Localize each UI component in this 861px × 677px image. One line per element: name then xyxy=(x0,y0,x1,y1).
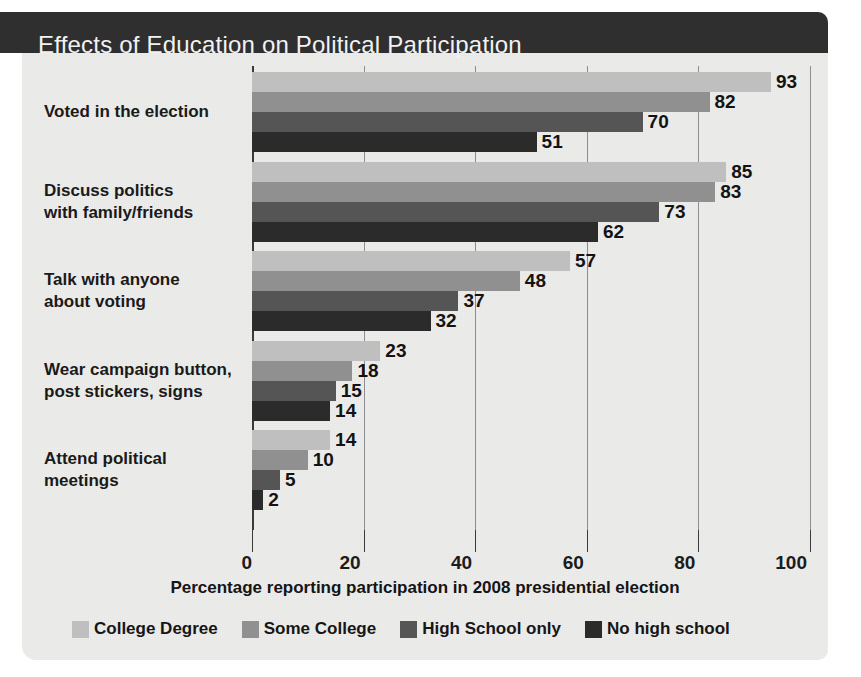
category-label: Wear campaign button, post stickers, sig… xyxy=(44,359,254,403)
category-label: Voted in the election xyxy=(44,101,254,123)
bar-value-label: 62 xyxy=(598,221,624,242)
bar[interactable] xyxy=(252,72,771,92)
bar[interactable] xyxy=(252,470,280,490)
x-axis-tick-label: 100 xyxy=(775,552,810,574)
bar[interactable] xyxy=(252,112,643,132)
chart-figure: Effects of Education on Political Partic… xyxy=(0,0,861,677)
legend-swatch xyxy=(585,621,602,638)
bar-row: 37 xyxy=(252,291,810,311)
legend-item[interactable]: No high school xyxy=(585,619,730,639)
bar-row: 10 xyxy=(252,450,810,470)
bar-value-label: 37 xyxy=(458,290,484,311)
bar-value-label: 93 xyxy=(771,71,797,92)
bar-row: 70 xyxy=(252,112,810,132)
bar[interactable] xyxy=(252,202,659,222)
legend-item[interactable]: Some College xyxy=(242,619,376,639)
bar-row: 23 xyxy=(252,341,810,361)
bar[interactable] xyxy=(252,311,431,331)
title-bar: Effects of Education on Political Partic… xyxy=(0,12,828,53)
bar-row: 14 xyxy=(252,430,810,450)
legend-swatch xyxy=(72,621,89,638)
legend-label: Some College xyxy=(264,619,376,639)
bar-row: 85 xyxy=(252,162,810,182)
bar[interactable] xyxy=(252,490,263,510)
bar-row: 51 xyxy=(252,132,810,152)
bar-row: 73 xyxy=(252,202,810,222)
chart-legend: College DegreeSome CollegeHigh School on… xyxy=(72,619,730,639)
legend-label: No high school xyxy=(607,619,730,639)
bar[interactable] xyxy=(252,430,330,450)
bar-row: 82 xyxy=(252,92,810,112)
bar[interactable] xyxy=(252,271,520,291)
bar-value-label: 15 xyxy=(336,380,362,401)
bar-row: 93 xyxy=(252,72,810,92)
bar[interactable] xyxy=(252,450,308,470)
bar[interactable] xyxy=(252,291,458,311)
bar-value-label: 73 xyxy=(659,201,685,222)
bar-value-label: 10 xyxy=(308,449,334,470)
bar-value-label: 14 xyxy=(330,429,356,450)
bar[interactable] xyxy=(252,401,330,421)
x-axis-tick-label: 0 xyxy=(241,552,255,574)
bar-row: 62 xyxy=(252,222,810,242)
legend-label: College Degree xyxy=(94,619,218,639)
bar[interactable] xyxy=(252,222,598,242)
category-label: Attend political meetings xyxy=(44,448,254,492)
bar-group: 23181514 xyxy=(252,341,810,421)
bar-group: 85837362 xyxy=(252,162,810,242)
legend-swatch xyxy=(242,621,259,638)
bar-row: 83 xyxy=(252,182,810,202)
bar-group: 141052 xyxy=(252,430,810,510)
bar-row: 2 xyxy=(252,490,810,510)
bar-value-label: 5 xyxy=(280,469,296,490)
bar[interactable] xyxy=(252,381,336,401)
x-axis-tick xyxy=(587,530,588,552)
legend-item[interactable]: College Degree xyxy=(72,619,218,639)
bar-row: 5 xyxy=(252,470,810,490)
x-axis-tick-label: 80 xyxy=(674,552,698,574)
page-title: Effects of Education on Political Partic… xyxy=(38,31,522,59)
bar-group: 93827051 xyxy=(252,72,810,152)
category-label: Discuss politics with family/friends xyxy=(44,180,254,224)
bar-value-label: 57 xyxy=(570,250,596,271)
bar[interactable] xyxy=(252,361,352,381)
bar-row: 14 xyxy=(252,401,810,421)
bar-value-label: 83 xyxy=(715,181,741,202)
x-axis-tick-label: 20 xyxy=(339,552,363,574)
bar-value-label: 82 xyxy=(710,91,736,112)
bar-group: 57483732 xyxy=(252,251,810,331)
x-axis-tick xyxy=(364,530,365,552)
bar-value-label: 48 xyxy=(520,270,546,291)
bar-row: 18 xyxy=(252,361,810,381)
x-axis-tick xyxy=(252,530,253,552)
bar[interactable] xyxy=(252,92,710,112)
bar-value-label: 70 xyxy=(643,111,669,132)
bar-row: 57 xyxy=(252,251,810,271)
x-axis-tick xyxy=(698,530,699,552)
legend-item[interactable]: High School only xyxy=(400,619,561,639)
bar-value-label: 2 xyxy=(263,489,279,510)
bar[interactable] xyxy=(252,132,537,152)
category-label: Talk with anyone about voting xyxy=(44,269,254,313)
bar-value-label: 85 xyxy=(726,161,752,182)
x-axis-title: Percentage reporting participation in 20… xyxy=(22,578,828,598)
x-axis-tick xyxy=(475,530,476,552)
bar-row: 32 xyxy=(252,311,810,331)
legend-label: High School only xyxy=(422,619,561,639)
bar-value-label: 23 xyxy=(380,340,406,361)
bar-value-label: 51 xyxy=(537,131,563,152)
category-label-column: Voted in the electionDiscuss politics wi… xyxy=(44,66,244,530)
bar[interactable] xyxy=(252,182,715,202)
legend-swatch xyxy=(400,621,417,638)
x-axis-tick xyxy=(810,530,811,552)
x-axis-tick-label: 60 xyxy=(563,552,587,574)
bar[interactable] xyxy=(252,162,726,182)
bar-row: 15 xyxy=(252,381,810,401)
bar[interactable] xyxy=(252,341,380,361)
gridline xyxy=(810,66,811,530)
bar[interactable] xyxy=(252,251,570,271)
bar-value-label: 18 xyxy=(352,360,378,381)
bar-value-label: 32 xyxy=(431,310,457,331)
bar-row: 48 xyxy=(252,271,810,291)
x-axis-tick-label: 40 xyxy=(451,552,475,574)
